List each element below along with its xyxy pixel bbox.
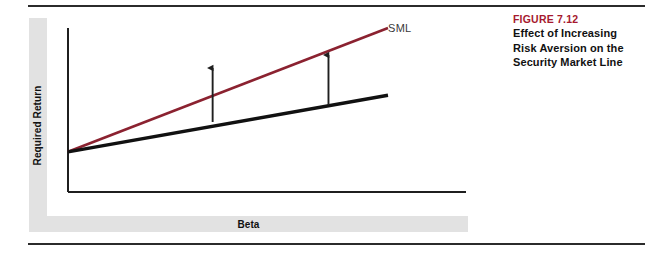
figure-caption: FIGURE 7.12 Effect of Increasing Risk Av… (513, 12, 648, 70)
sml-series-label: SML (388, 22, 412, 34)
caption-line-1: Effect of Increasing (513, 26, 648, 41)
figure-container: Required Return Beta SML FIGURE 7.12 Eff… (0, 0, 656, 254)
sml-line-original (68, 95, 388, 152)
figure-number: FIGURE 7.12 (513, 12, 648, 26)
caption-line-2: Risk Aversion on the (513, 41, 648, 56)
caption-line-3: Security Market Line (513, 55, 648, 70)
sml-line-new (68, 28, 388, 152)
